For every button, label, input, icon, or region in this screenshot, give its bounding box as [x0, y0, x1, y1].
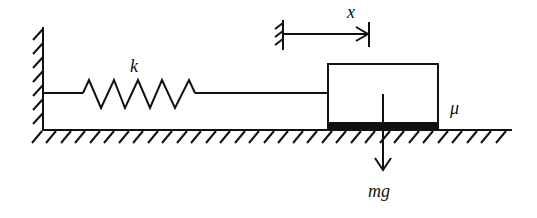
wall: [33, 27, 43, 131]
spring-mass-diagram: k x μ mg: [0, 0, 537, 218]
friction-coefficient-label: μ: [449, 98, 459, 118]
displacement-arrow: [275, 20, 369, 50]
weight-label: mg: [368, 181, 390, 201]
spring-constant-label: k: [130, 56, 139, 76]
spring: [43, 80, 328, 108]
displacement-label: x: [346, 2, 355, 22]
floor: [32, 130, 512, 143]
